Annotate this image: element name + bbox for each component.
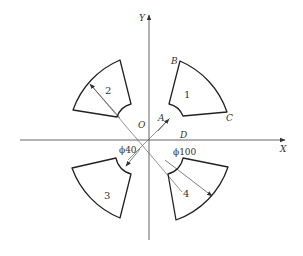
outer-diameter-label: ϕ100 [173,147,197,157]
sector-1 [169,61,227,116]
sector-2 [73,60,131,117]
origin-label: O [138,120,146,130]
diagram-canvas: Y X O B C A D 1 2 3 4 ϕ40 ϕ100 [0,0,303,256]
point-d-label: D [179,130,187,140]
sector-1-label: 1 [184,89,190,100]
axes [20,15,285,240]
inner-diameter-label: ϕ40 [119,145,137,155]
point-b-label: B [170,56,178,66]
point-a-label: A [157,113,165,123]
sector-4-label: 4 [183,188,189,199]
sector-4 [168,158,228,220]
sector-3 [72,158,131,218]
sector-2-label: 2 [105,85,111,96]
y-axis-label: Y [139,13,146,23]
diagram-svg: Y X O B C A D 1 2 3 4 ϕ40 ϕ100 [0,0,303,256]
x-axis-label: X [279,144,287,154]
point-c-label: C [226,113,233,123]
sector-3-label: 3 [104,190,110,201]
